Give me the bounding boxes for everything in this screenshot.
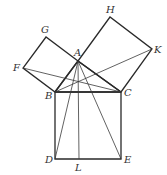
segment-FC (23, 68, 121, 92)
label-B: B (44, 90, 52, 101)
square-BCED (55, 92, 121, 159)
pythagorean-diagram: A B C D E L F G H K (0, 0, 167, 175)
label-L: L (74, 162, 82, 173)
label-A: A (73, 47, 81, 58)
squares-layer (23, 17, 152, 159)
label-C: C (124, 87, 132, 98)
label-D: D (44, 154, 53, 165)
labels-layer: A B C D E L F G H K (12, 4, 162, 173)
segment-AL (78, 61, 79, 159)
label-F: F (12, 62, 21, 73)
label-G: G (41, 24, 49, 35)
label-H: H (105, 4, 115, 15)
segments-layer (23, 49, 152, 159)
square-ACKH (78, 17, 152, 92)
label-E: E (123, 154, 132, 165)
square-ABFG (23, 37, 78, 92)
label-K: K (153, 44, 162, 55)
